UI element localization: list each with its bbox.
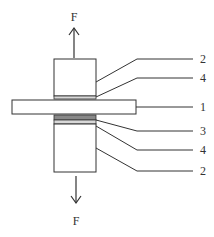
label-bottom-block: 2: [200, 164, 206, 178]
force-arrow-down-icon: [71, 176, 81, 203]
force-label-bottom: F: [73, 214, 80, 228]
bottom-block: [54, 124, 96, 172]
label-top-layer: 4: [200, 71, 206, 85]
label-plate: 1: [200, 100, 206, 114]
label-top-block: 2: [200, 52, 206, 66]
bottom-coating-layer: [54, 115, 96, 120]
plate: [12, 100, 136, 114]
top-adhesive-layer: [54, 96, 96, 99]
force-arrow-up-icon: [69, 28, 79, 58]
bottom-adhesive-layer: [54, 120, 96, 124]
leader-lines: [96, 59, 193, 171]
force-label-top: F: [71, 10, 78, 24]
label-coating: 3: [200, 124, 206, 138]
tensile-test-diagram: F F 2 4 1 3 4 2: [0, 0, 214, 237]
label-bottom-layer: 4: [200, 143, 206, 157]
top-block: [54, 59, 96, 96]
